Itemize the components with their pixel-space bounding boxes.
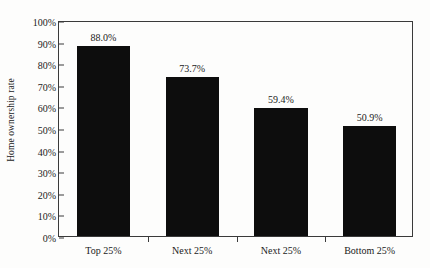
- y-axis-tick: 0%: [43, 233, 59, 244]
- y-axis-tick: 70%: [38, 81, 59, 92]
- bar-value-label: 50.9%: [357, 112, 383, 123]
- y-axis-tick-label: 100%: [33, 17, 59, 28]
- y-axis-tick-label: 0%: [43, 233, 59, 244]
- y-axis-tick: 40%: [38, 146, 59, 157]
- y-axis-title-label: Home ownership rate: [6, 78, 16, 162]
- y-axis-tick-label: 20%: [38, 189, 59, 200]
- y-axis-tick-label: 50%: [38, 125, 59, 136]
- y-axis-tick-mark: [59, 21, 64, 22]
- bar: 50.9%: [343, 126, 396, 236]
- y-axis-tick-label: 60%: [38, 103, 59, 114]
- bar-value-label: 88.0%: [90, 32, 116, 43]
- y-axis-tick-mark: [59, 216, 64, 217]
- y-axis-tick-label: 70%: [38, 81, 59, 92]
- y-axis-tick: 80%: [38, 60, 59, 71]
- x-axis-tick-mark: [325, 236, 326, 242]
- y-axis-tick-mark: [59, 129, 64, 130]
- y-axis-tick-mark: [59, 43, 64, 44]
- x-axis-category-label: Bottom 25%: [344, 245, 395, 256]
- bar-chart: Home ownership rate 100%90%80%70%60%50%4…: [0, 0, 430, 268]
- x-axis-tick-mark: [148, 236, 149, 242]
- y-axis-tick: 30%: [38, 168, 59, 179]
- bar: 59.4%: [254, 108, 307, 236]
- y-axis-tick-mark: [59, 65, 64, 66]
- bar: 88.0%: [77, 46, 130, 236]
- y-axis-tick: 50%: [38, 125, 59, 136]
- y-axis-title: Home ownership rate: [0, 0, 22, 240]
- y-axis-tick-label: 80%: [38, 60, 59, 71]
- bar: 73.7%: [166, 77, 219, 236]
- y-axis-tick: 90%: [38, 38, 59, 49]
- x-axis-tick-mark: [237, 236, 238, 242]
- y-axis-tick-label: 90%: [38, 38, 59, 49]
- x-axis-category-label: Next 25%: [172, 245, 212, 256]
- y-axis-tick: 10%: [38, 211, 59, 222]
- y-axis-tick: 60%: [38, 103, 59, 114]
- bar-value-label: 73.7%: [179, 63, 205, 74]
- y-axis-tick-mark: [59, 194, 64, 195]
- y-axis-tick-label: 10%: [38, 211, 59, 222]
- x-axis-category-label: Top 25%: [85, 245, 121, 256]
- bar-value-label: 59.4%: [268, 94, 294, 105]
- y-axis-tick-mark: [59, 151, 64, 152]
- y-axis-tick-mark: [59, 173, 64, 174]
- y-axis-tick: 100%: [33, 17, 59, 28]
- y-axis-tick-mark: [59, 108, 64, 109]
- x-axis-category-label: Next 25%: [261, 245, 301, 256]
- y-axis-tick: 20%: [38, 189, 59, 200]
- y-axis-tick-label: 30%: [38, 168, 59, 179]
- y-axis-tick-label: 40%: [38, 146, 59, 157]
- plot-area: 100%90%80%70%60%50%40%30%20%10%0% 88.0%7…: [58, 21, 413, 237]
- y-axis-tick-mark: [59, 86, 64, 87]
- y-axis-tick-mark: [59, 237, 64, 238]
